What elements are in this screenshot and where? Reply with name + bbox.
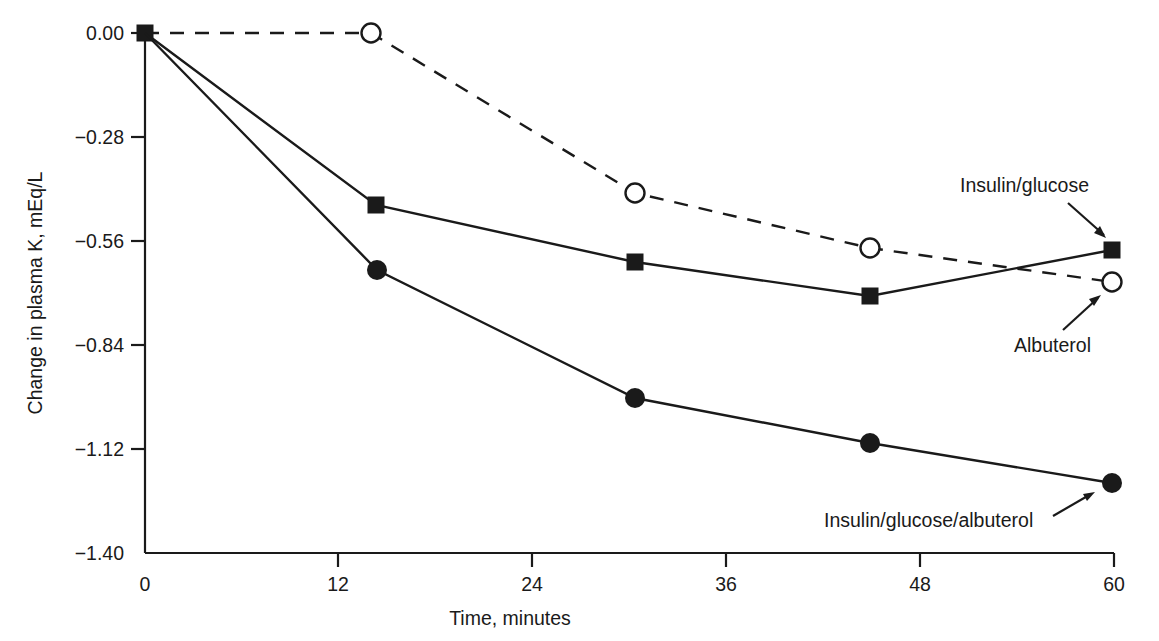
series-albuterol	[145, 24, 1122, 292]
annotation-insulin-glucose: Insulin/glucose	[960, 174, 1106, 238]
y-axis-title: Change in plasma K, mEq/L	[24, 171, 46, 414]
y-tick-label-0: 0.00	[86, 22, 124, 44]
data-point-insulin-glucose-albuterol	[625, 388, 645, 408]
figure-chart-potassium-change: 0.00 −0.28 −0.56 −0.84 −1.12 −1.40 0 12 …	[0, 0, 1159, 641]
x-tick-labels: 0 12 24 36 48 60	[140, 573, 1125, 595]
y-tick-label-4: −1.12	[75, 438, 124, 460]
data-point-albuterol	[1103, 273, 1122, 292]
annotation-iga-arrow-head	[1083, 492, 1095, 501]
data-point-insulin-glucose-albuterol	[860, 433, 880, 453]
data-point-insulin-glucose	[368, 197, 385, 214]
y-tick-label-3: −0.84	[75, 334, 124, 356]
annotation-albuterol-label: Albuterol	[1014, 334, 1091, 356]
data-point-albuterol	[626, 184, 645, 203]
x-tick-label-4: 48	[909, 573, 931, 595]
data-point-insulin-glucose	[862, 288, 879, 305]
series-albuterol-line	[145, 33, 1112, 282]
y-tick-labels: 0.00 −0.28 −0.56 −0.84 −1.12 −1.40	[75, 22, 124, 564]
x-tick-label-3: 36	[715, 573, 737, 595]
x-axis-title: Time, minutes	[449, 607, 571, 629]
data-point-insulin-glucose-albuterol	[367, 260, 387, 280]
data-point-albuterol	[861, 239, 880, 258]
annotation-insulin-glucose-label: Insulin/glucose	[960, 174, 1089, 196]
annotation-insulin-glucose-albuterol-label: Insulin/glucose/albuterol	[824, 509, 1033, 531]
y-tick-label-5: −1.40	[75, 542, 124, 564]
y-tick-label-1: −0.28	[75, 126, 124, 148]
x-tick-marks	[338, 553, 1114, 567]
data-point-insulin-glucose	[627, 254, 644, 271]
annotation-albuterol: Albuterol	[1014, 295, 1101, 356]
y-tick-label-2: −0.56	[75, 230, 124, 252]
y-tick-marks	[131, 33, 145, 449]
line-chart-svg: 0.00 −0.28 −0.56 −0.84 −1.12 −1.40 0 12 …	[0, 0, 1159, 641]
x-tick-label-1: 12	[327, 573, 349, 595]
x-tick-label-5: 60	[1103, 573, 1125, 595]
axis-group	[131, 33, 1114, 567]
x-tick-label-2: 24	[521, 573, 543, 595]
data-point-albuterol	[362, 24, 381, 43]
annotation-insulin-glucose-albuterol: Insulin/glucose/albuterol	[824, 492, 1095, 531]
data-point-insulin-glucose	[1104, 242, 1121, 259]
x-tick-label-0: 0	[140, 573, 151, 595]
data-point-insulin-glucose-albuterol	[1102, 473, 1122, 493]
